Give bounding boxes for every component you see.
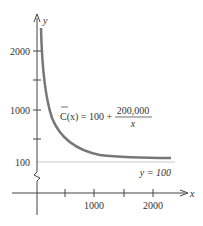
equation-numerator: 200,000 <box>117 105 150 116</box>
asymptote-label: y = 100 <box>139 167 171 178</box>
axis-break-icon <box>34 172 40 181</box>
x-tick-2000: 2000 <box>143 200 163 211</box>
x-tick-1000: 1000 <box>84 200 104 211</box>
y-tick-2000: 2000 <box>10 46 30 57</box>
equation-denominator: x <box>130 118 136 129</box>
equation-lhs: C(x) = 100 + <box>60 111 112 123</box>
x-axis-label: x <box>189 188 195 199</box>
y-axis-label: y <box>42 15 48 26</box>
y-tick-100: 100 <box>15 157 30 168</box>
y-tick-1000: 1000 <box>10 105 30 116</box>
cost-curve <box>41 28 171 158</box>
cost-chart: y x 2000 1000 100 1000 2000 C(x) = 100 +… <box>0 0 203 226</box>
